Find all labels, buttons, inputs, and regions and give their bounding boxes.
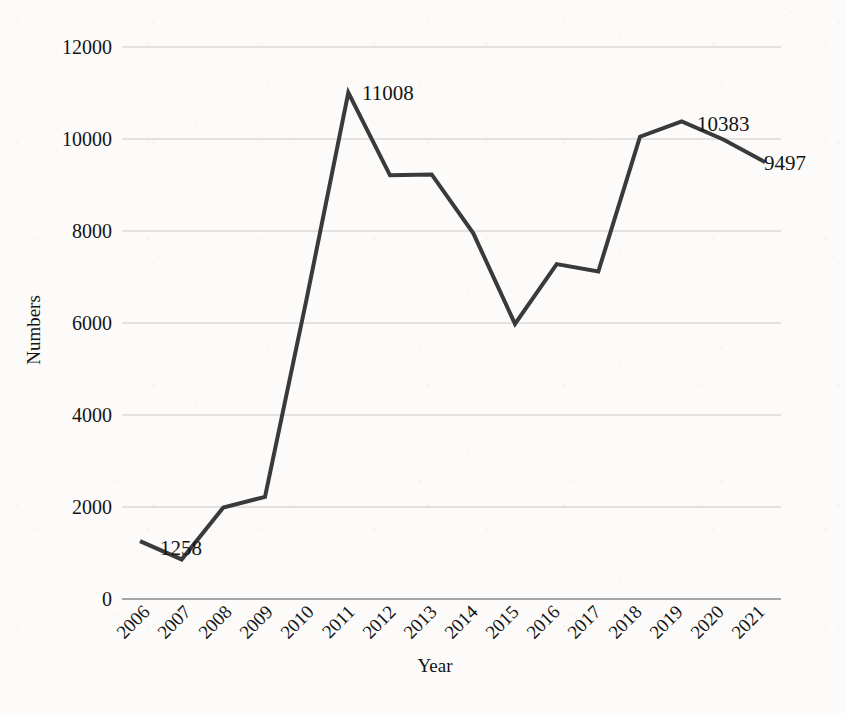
ytick-label-12000: 12000 [62, 36, 112, 58]
xtick-label-2014: 2014 [440, 601, 482, 643]
data-label-9497: 9497 [764, 151, 806, 175]
x-axis-title: Year [417, 655, 453, 676]
ytick-label-0: 0 [102, 588, 112, 610]
xtick-label-2015: 2015 [481, 601, 523, 643]
data-label-1258: 1258 [160, 536, 202, 560]
xtick-label-2013: 2013 [399, 601, 441, 643]
xtick-label-2021: 2021 [727, 601, 769, 643]
ytick-label-10000: 10000 [62, 128, 112, 150]
gridlines [122, 47, 781, 599]
xtick-label-2019: 2019 [645, 601, 687, 643]
y-axis-title: Numbers [23, 295, 44, 365]
ytick-label-6000: 6000 [72, 312, 112, 334]
xtick-label-2006: 2006 [112, 601, 154, 643]
xtick-label-2009: 2009 [235, 601, 277, 643]
xtick-label-2007: 2007 [153, 601, 195, 643]
data-line-series [140, 93, 765, 560]
y-axis-tick-labels: 12000 10000 8000 6000 4000 2000 0 [62, 36, 112, 610]
data-label-11008: 11008 [362, 81, 414, 105]
line-chart: 12000 10000 8000 6000 4000 2000 0 2006 2… [0, 0, 845, 713]
xtick-label-2008: 2008 [194, 601, 236, 643]
ytick-label-8000: 8000 [72, 220, 112, 242]
x-axis-tick-labels: 2006 2007 2008 2009 2010 2011 2012 2013 … [112, 601, 769, 643]
xtick-label-2012: 2012 [358, 601, 400, 643]
xtick-label-2011: 2011 [318, 601, 359, 642]
data-label-10383: 10383 [697, 112, 750, 136]
xtick-label-2016: 2016 [522, 601, 564, 643]
xtick-label-2020: 2020 [686, 601, 728, 643]
ytick-label-4000: 4000 [72, 404, 112, 426]
ytick-label-2000: 2000 [72, 496, 112, 518]
data-point-annotations: 1258 11008 10383 9497 [160, 81, 806, 560]
xtick-label-2017: 2017 [563, 601, 605, 643]
xtick-label-2010: 2010 [276, 601, 318, 643]
xtick-label-2018: 2018 [604, 601, 646, 643]
chart-canvas: 12000 10000 8000 6000 4000 2000 0 2006 2… [0, 0, 845, 713]
